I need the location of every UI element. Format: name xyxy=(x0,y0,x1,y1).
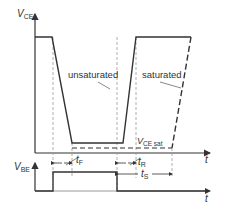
tf-label: tF xyxy=(76,154,83,166)
vce-plot: VCE unsaturated saturated VCE sat t xyxy=(17,8,210,190)
vbe-plot: VBE t xyxy=(14,161,210,204)
saturated-curve xyxy=(172,37,191,148)
unsaturated-curve xyxy=(35,37,191,143)
guide-lines xyxy=(53,37,172,190)
ts-label: tS xyxy=(141,168,149,180)
vbe-pulse xyxy=(35,172,208,191)
vce-t-label: t xyxy=(205,154,209,165)
saturated-label: saturated xyxy=(142,69,182,80)
vbe-axis-label: VBE xyxy=(14,161,30,173)
transistor-switching-diagram: VCE unsaturated saturated VCE sat t tF t… xyxy=(0,0,225,211)
unsaturated-label: unsaturated xyxy=(68,69,118,80)
vbe-t-label: t xyxy=(205,193,209,204)
tr-label: tR xyxy=(138,156,146,168)
vce-axis-label: VCE xyxy=(17,8,34,20)
vce-sat-label: VCE sat xyxy=(137,136,163,147)
